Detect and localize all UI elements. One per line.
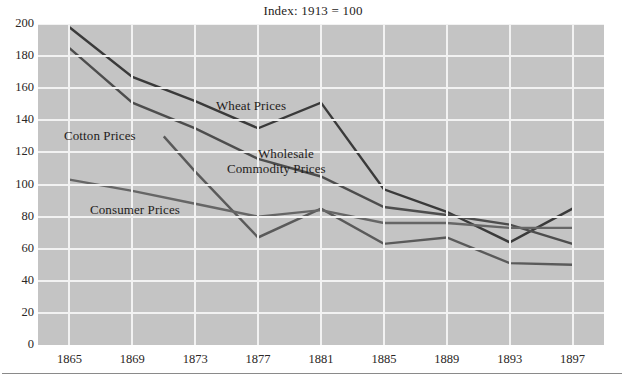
series-annotation-label: Wheat Prices bbox=[216, 98, 286, 113]
y-axis-tick-label: 100 bbox=[0, 178, 34, 190]
x-axis-tick-label: 1881 bbox=[291, 352, 351, 367]
bottom-rule bbox=[2, 373, 622, 374]
gridline-vertical bbox=[194, 24, 196, 345]
y-axis-tick-label: 60 bbox=[0, 242, 34, 254]
y-axis-tick-label: 80 bbox=[0, 210, 34, 222]
x-axis-tick-label: 1897 bbox=[543, 352, 603, 367]
y-axis-tick-label: 20 bbox=[0, 306, 34, 318]
gridline-vertical bbox=[131, 24, 133, 345]
x-axis-tick-label: 1877 bbox=[228, 352, 288, 367]
chart-title: Index: 1913 = 100 bbox=[0, 3, 626, 19]
gridline-vertical bbox=[68, 24, 70, 345]
y-axis-tick-label: 140 bbox=[0, 113, 34, 125]
x-axis-tick-label: 1885 bbox=[354, 352, 414, 367]
x-axis-tick-label: 1889 bbox=[417, 352, 477, 367]
y-axis-tick-label: 180 bbox=[0, 49, 34, 61]
y-axis-tick-label: 120 bbox=[0, 145, 34, 157]
series-annotation-label: Consumer Prices bbox=[90, 202, 180, 217]
gridline-vertical bbox=[446, 24, 448, 345]
x-axis-tick-label: 1865 bbox=[39, 352, 99, 367]
x-axis-tick-label: 1893 bbox=[480, 352, 540, 367]
gridline-vertical bbox=[509, 24, 511, 345]
gridline-vertical bbox=[320, 24, 322, 345]
gridline-vertical bbox=[257, 24, 259, 345]
y-axis-tick-label: 200 bbox=[0, 17, 34, 29]
series-annotation-label: Cotton Prices bbox=[64, 128, 136, 143]
x-axis-tick-label: 1873 bbox=[165, 352, 225, 367]
gridline-vertical bbox=[383, 24, 385, 345]
plot-area bbox=[38, 24, 604, 345]
y-axis: 200180160140120100806040200 bbox=[0, 0, 34, 382]
series-annotation-label: Wholesale bbox=[258, 146, 314, 161]
chart-figure: Index: 1913 = 100 2001801601401201008060… bbox=[0, 0, 626, 382]
y-axis-tick-label: 40 bbox=[0, 274, 34, 286]
series-annotation-label: Commodity Prices bbox=[227, 161, 326, 176]
y-axis-tick-label: 0 bbox=[0, 338, 34, 350]
y-axis-tick-label: 160 bbox=[0, 81, 34, 93]
gridline-vertical bbox=[572, 24, 574, 345]
x-axis-tick-label: 1869 bbox=[102, 352, 162, 367]
